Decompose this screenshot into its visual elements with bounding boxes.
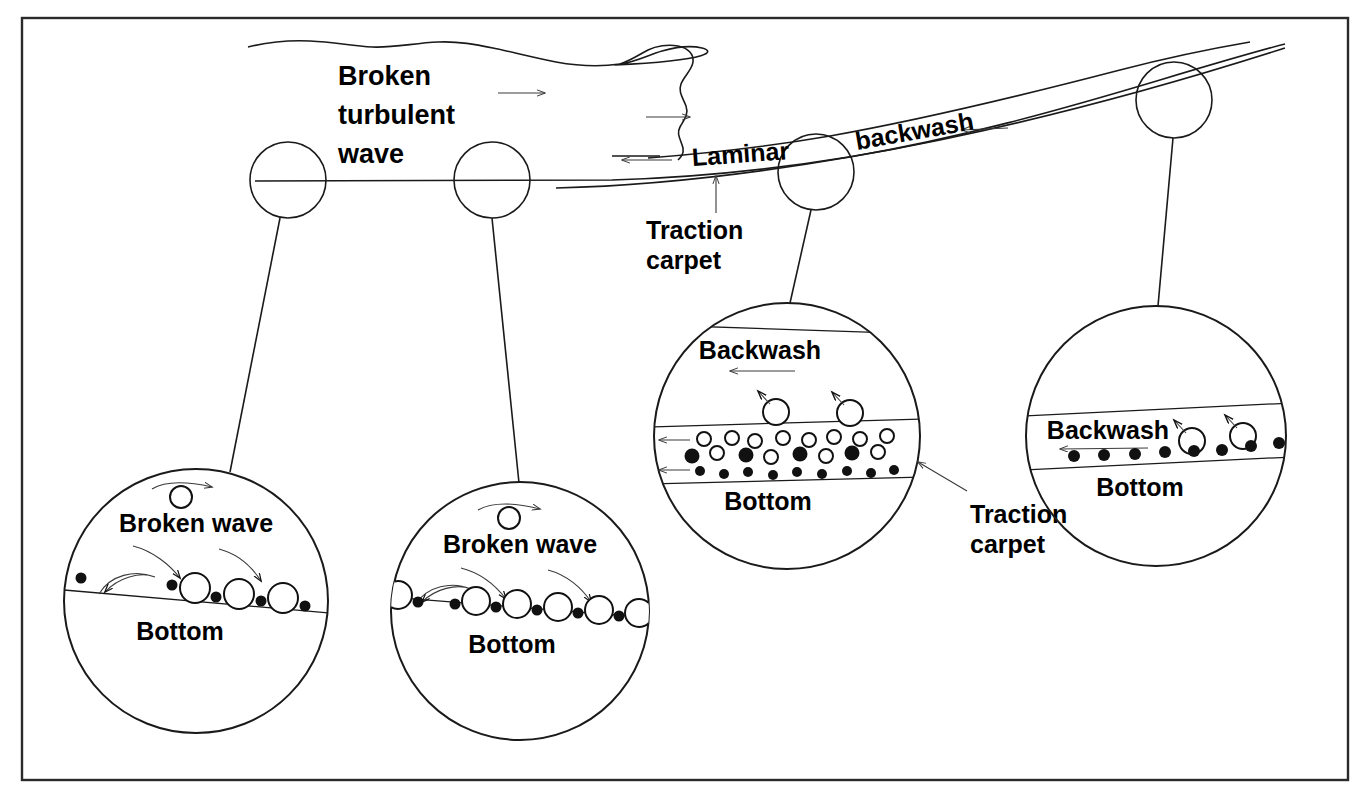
profile-circle-1[interactable] [250, 142, 326, 218]
detail-circle-4-group[interactable]: Backwash Bottom [1024, 306, 1292, 566]
carpet-base-4 [1024, 457, 1292, 470]
grain-solid [300, 601, 311, 612]
grain-open [585, 596, 613, 624]
diagram-svg: Broken wave Bottom [0, 0, 1361, 799]
grain-open [776, 431, 790, 445]
broken-turbulent-wave-line2: turbulent [338, 100, 455, 130]
grain-open [853, 432, 867, 446]
grain-open [748, 434, 762, 448]
suspended-arrow-3b [832, 392, 844, 405]
saltation-loop-1 [99, 574, 155, 594]
grain-solid [450, 599, 461, 610]
grain-solid [211, 592, 222, 603]
grain-open [819, 449, 833, 463]
grain-open [462, 587, 490, 615]
suspended-arrow-3a [758, 391, 770, 404]
grain-solid [792, 467, 802, 477]
grain-open [764, 450, 778, 464]
grain-solid [889, 465, 899, 475]
grain-solid [413, 597, 424, 608]
leader-line-1 [230, 218, 280, 472]
grain-solid [491, 602, 502, 613]
detail-circle-2-group[interactable]: Broken wave Bottom [384, 482, 653, 740]
grain-solid [1159, 446, 1171, 458]
grain-solid [719, 469, 729, 479]
grain-solid [1188, 445, 1200, 457]
laminar-label: Laminar [691, 136, 790, 171]
traction-carpet-inset-label-2: carpet [970, 530, 1046, 558]
suspended-arrow-4b [1225, 415, 1237, 428]
grain-open [710, 446, 724, 460]
turbulent-wave-surface [248, 41, 708, 66]
grain-open [224, 579, 254, 609]
grain-open [503, 590, 531, 618]
detail-1-bottom-label: Bottom [136, 617, 223, 645]
grain-open [180, 573, 210, 603]
grain-solid [768, 470, 778, 480]
leader-line-3 [790, 210, 811, 303]
detail-circle-1-group[interactable]: Broken wave Bottom [64, 469, 330, 733]
detail-4-top-label: Backwash [1047, 416, 1169, 444]
grain-solid [866, 468, 876, 478]
detail-2-bottom-label: Bottom [468, 630, 555, 658]
suspended-grain-1 [170, 486, 192, 508]
grain-open [697, 432, 711, 446]
suspended-grain-3b [837, 400, 863, 426]
grain-solid [845, 446, 860, 461]
detail-3-top-label: Backwash [699, 336, 821, 364]
grain-solid [1245, 440, 1257, 452]
traction-carpet-profile-label-2: carpet [646, 246, 722, 274]
grain-solid [1273, 437, 1285, 449]
grain-open [802, 433, 816, 447]
grain-solid [817, 469, 827, 479]
grain-solid [1068, 450, 1080, 462]
detail-4-bottom-label: Bottom [1096, 473, 1183, 501]
suspended-grain-3a [763, 399, 789, 425]
suspended-grain-2 [498, 507, 520, 529]
broken-turbulent-wave-line3: wave [337, 139, 404, 169]
grain-open [880, 429, 894, 443]
grain-solid [1216, 444, 1228, 456]
grain-solid [793, 447, 808, 462]
traction-carpet-inset-arrow [918, 462, 967, 491]
grain-solid [695, 466, 705, 476]
leader-line-4 [1158, 138, 1173, 306]
grain-open [871, 445, 885, 459]
grain-solid [614, 611, 625, 622]
grain-solid [167, 580, 178, 591]
detail-2-top-label: Broken wave [443, 530, 597, 558]
water-surface-3 [655, 325, 925, 334]
carpet-base-3 [648, 477, 925, 484]
grain-open [725, 431, 739, 445]
suspended-arrow-4a [1174, 420, 1186, 433]
grain-solid [532, 605, 543, 616]
grain-open [544, 593, 572, 621]
profile-circle-4[interactable] [1136, 62, 1212, 138]
backwash-profile-label: backwash [853, 107, 976, 155]
figure-canvas: Broken wave Bottom [0, 0, 1361, 799]
grain-solid [739, 448, 754, 463]
grain-solid [573, 608, 584, 619]
grain-solid [842, 466, 852, 476]
carpet-top-4 [1024, 403, 1292, 416]
grain-open [268, 583, 298, 613]
grain-solid [685, 449, 700, 464]
grain-solid [1129, 448, 1141, 460]
detail-1-top-label: Broken wave [119, 509, 273, 537]
motion-arrow-1c [219, 549, 261, 581]
grain-solid [1098, 449, 1110, 461]
detail-3-bottom-label: Bottom [724, 487, 811, 515]
profile-circle-3[interactable] [778, 134, 854, 210]
broken-turbulent-wave-line1: Broken [338, 61, 431, 91]
detail-circle-3-group[interactable]: Backwash Bottom Traction carpet [648, 303, 1067, 569]
leader-line-2 [492, 218, 519, 483]
grain-solid [743, 467, 753, 477]
grain-solid [76, 573, 87, 584]
grain-solid [256, 596, 267, 607]
traction-carpet-profile-label-1: Traction [646, 216, 743, 244]
figure-border [22, 18, 1348, 780]
grain-open [384, 581, 412, 609]
grain-open [827, 430, 841, 444]
